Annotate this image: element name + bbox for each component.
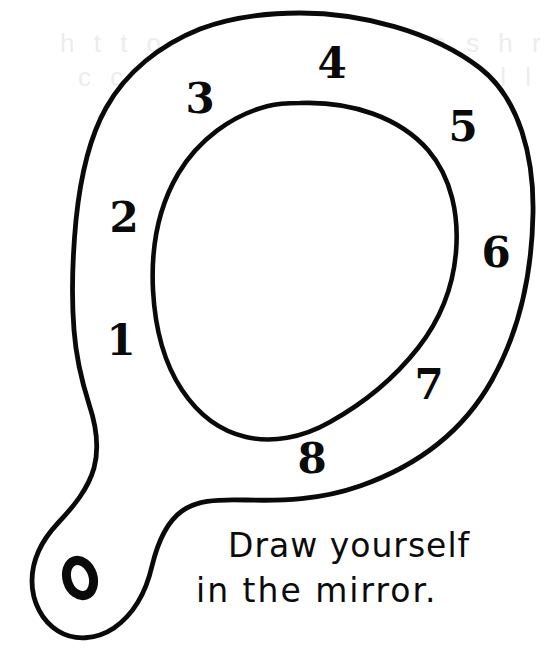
frame-number-2: 2	[109, 197, 138, 239]
frame-number-3: 3	[185, 78, 214, 120]
frame-number-7: 7	[414, 364, 443, 406]
frame-number-1: 1	[106, 320, 135, 362]
frame-number-6: 6	[481, 232, 510, 274]
frame-number-5: 5	[448, 106, 477, 148]
frame-number-8: 8	[297, 438, 326, 480]
caption-line-2: in the mirror.	[196, 572, 438, 611]
coloring-page: h t t o a a d v f l b h a s h r c c v l …	[0, 0, 558, 661]
frame-number-4: 4	[317, 43, 346, 85]
caption-line-1: Draw yourself	[228, 527, 470, 566]
